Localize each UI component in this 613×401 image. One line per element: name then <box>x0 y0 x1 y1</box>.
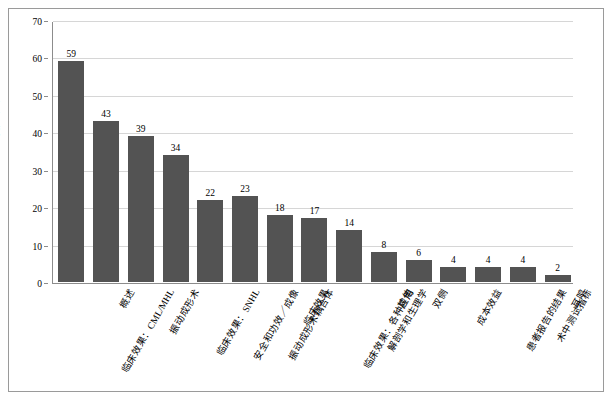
y-tick-mark <box>44 246 48 247</box>
bar[interactable] <box>58 61 84 282</box>
y-tick-label: 40 <box>33 129 43 139</box>
bar-slot: 43 <box>89 22 124 282</box>
y-tick-mark <box>44 283 48 284</box>
bar-value-label: 34 <box>171 143 181 153</box>
y-tick-mark <box>44 133 48 134</box>
x-tick-label: 概述 <box>119 288 138 310</box>
y-tick-mark <box>44 58 48 59</box>
bar[interactable] <box>336 230 362 282</box>
bar-value-label: 4 <box>521 255 526 265</box>
bar[interactable] <box>510 267 536 282</box>
bar[interactable] <box>406 260 432 282</box>
x-tick-label: 临床效果：SNHL <box>216 288 262 358</box>
bar[interactable] <box>197 200 223 282</box>
y-axis-tick-labels: 010203040506070 <box>0 22 48 284</box>
y-tick-mark <box>44 171 48 172</box>
y-tick-label: 30 <box>33 167 43 177</box>
bar-value-label: 22 <box>206 188 216 198</box>
bar-slot: 34 <box>158 22 193 282</box>
bar-value-label: 6 <box>416 248 421 258</box>
bar-slot: 39 <box>123 22 158 282</box>
bar-value-label: 23 <box>240 184 250 194</box>
y-tick-label: 10 <box>33 242 43 252</box>
bar-value-label: 2 <box>555 263 560 273</box>
bar-value-label: 59 <box>67 49 77 59</box>
y-tick-mark <box>44 208 48 209</box>
bar-slot: 59 <box>54 22 89 282</box>
bar-value-label: 14 <box>344 218 354 228</box>
bar-value-label: 8 <box>382 240 387 250</box>
bar-slot: 23 <box>228 22 263 282</box>
plot-area: 594339342223181714864442 <box>52 22 573 284</box>
y-tick-label: 0 <box>37 279 42 289</box>
bar[interactable] <box>301 218 327 282</box>
bar-slot: 14 <box>332 22 367 282</box>
bar-slot: 2 <box>540 22 575 282</box>
bar-value-label: 4 <box>451 255 456 265</box>
bar-value-label: 18 <box>275 203 285 213</box>
bar-slot: 8 <box>367 22 402 282</box>
bar[interactable] <box>440 267 466 282</box>
publication-count-bar-chart: 出版物数量 010203040506070 594339342223181714… <box>0 0 613 401</box>
x-axis-tick-labels: 临床效果：CML/MHL概述振动成形术临床效果：SNHL安全和功效／成像振动成形… <box>52 288 573 388</box>
bar[interactable] <box>93 121 119 282</box>
x-tick-label: 成本效益 <box>476 288 505 328</box>
bar[interactable] <box>128 136 154 282</box>
bar-value-label: 43 <box>101 109 111 119</box>
bar-slot: 6 <box>401 22 436 282</box>
bar[interactable] <box>371 252 397 282</box>
bar-slot: 4 <box>506 22 541 282</box>
y-tick-label: 20 <box>33 204 43 214</box>
bar-slot: 18 <box>262 22 297 282</box>
bar[interactable] <box>267 215 293 282</box>
bar-slot: 4 <box>471 22 506 282</box>
bar-value-label: 4 <box>486 255 491 265</box>
bar-series: 594339342223181714864442 <box>54 22 573 282</box>
bar-slot: 17 <box>297 22 332 282</box>
bar[interactable] <box>163 155 189 282</box>
y-tick-label: 70 <box>33 17 43 27</box>
bar-slot: 22 <box>193 22 228 282</box>
bar[interactable] <box>545 275 571 282</box>
x-tick-label: 双侧 <box>432 288 451 310</box>
bar[interactable] <box>232 196 258 282</box>
y-tick-label: 60 <box>33 54 43 64</box>
bar-value-label: 39 <box>136 124 146 134</box>
bar[interactable] <box>475 267 501 282</box>
bar-value-label: 17 <box>310 206 320 216</box>
bar-slot: 4 <box>436 22 471 282</box>
y-tick-label: 50 <box>33 92 43 102</box>
y-tick-mark <box>44 21 48 22</box>
y-tick-mark <box>44 96 48 97</box>
